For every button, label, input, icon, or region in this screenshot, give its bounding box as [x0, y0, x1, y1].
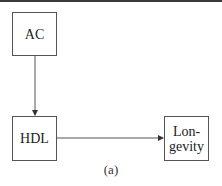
node-longevity-label: Lon- gevity [169, 124, 204, 154]
node-longevity: Lon- gevity [164, 116, 209, 161]
figure-caption: (a) [0, 162, 222, 178]
node-hdl-label: HDL [20, 131, 49, 146]
node-hdl: HDL [12, 116, 57, 161]
node-ac-label: AC [25, 27, 44, 42]
node-ac: AC [12, 12, 57, 56]
